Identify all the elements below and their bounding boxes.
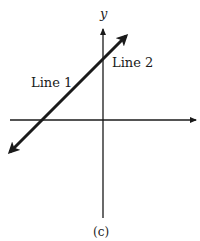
line-2-label: Line 2 [112,55,153,70]
y-axis-label: y [99,6,108,21]
line-1-and-2 [10,36,126,152]
figure-caption: (c) [93,225,109,239]
diagram-canvas: y Line 1 Line 2 (c) [0,0,200,241]
line-1-label: Line 1 [31,75,72,90]
